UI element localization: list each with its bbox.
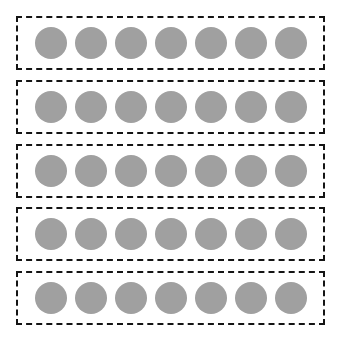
- counter-circle[interactable]: [275, 155, 307, 187]
- counter-circle[interactable]: [275, 282, 307, 314]
- counter-circle[interactable]: [195, 27, 227, 59]
- counter-circle[interactable]: [75, 91, 107, 123]
- counter-group[interactable]: Group 1: [16, 16, 325, 70]
- counter-circle[interactable]: [235, 27, 267, 59]
- counter-circle[interactable]: [115, 91, 147, 123]
- counter-circle[interactable]: [195, 282, 227, 314]
- counter-circle[interactable]: [235, 282, 267, 314]
- counter-circle[interactable]: [35, 218, 67, 250]
- counter-circle[interactable]: [235, 218, 267, 250]
- group-list: Group 1Group 2Group 3Group 4Group 5: [16, 16, 325, 325]
- counter-group[interactable]: Group 3: [16, 144, 325, 198]
- counter-group[interactable]: Group 4: [16, 207, 325, 261]
- diagram-canvas: Group 1Group 2Group 3Group 4Group 5: [0, 0, 341, 343]
- counter-circle[interactable]: [35, 282, 67, 314]
- counter-circle[interactable]: [35, 155, 67, 187]
- counter-circle[interactable]: [115, 155, 147, 187]
- counter-circle[interactable]: [275, 91, 307, 123]
- counter-circle[interactable]: [155, 282, 187, 314]
- counter-circle[interactable]: [275, 27, 307, 59]
- counter-circle[interactable]: [115, 282, 147, 314]
- counter-circle[interactable]: [235, 91, 267, 123]
- counter-circle[interactable]: [195, 155, 227, 187]
- counter-circle[interactable]: [275, 218, 307, 250]
- counter-circle[interactable]: [155, 91, 187, 123]
- counter-group[interactable]: Group 2: [16, 80, 325, 134]
- counter-circle[interactable]: [35, 91, 67, 123]
- counter-circle[interactable]: [195, 218, 227, 250]
- counter-circle[interactable]: [235, 155, 267, 187]
- counter-circle[interactable]: [115, 218, 147, 250]
- counter-circle[interactable]: [155, 218, 187, 250]
- counter-circle[interactable]: [75, 155, 107, 187]
- counter-circle[interactable]: [155, 155, 187, 187]
- counter-circle[interactable]: [75, 282, 107, 314]
- counter-circle[interactable]: [155, 27, 187, 59]
- counter-group[interactable]: Group 5: [16, 271, 325, 325]
- counter-circle[interactable]: [35, 27, 67, 59]
- counter-circle[interactable]: [115, 27, 147, 59]
- counter-circle[interactable]: [75, 218, 107, 250]
- counter-circle[interactable]: [75, 27, 107, 59]
- counter-circle[interactable]: [195, 91, 227, 123]
